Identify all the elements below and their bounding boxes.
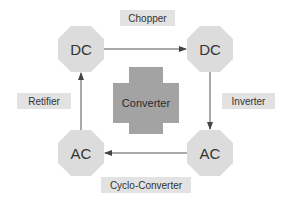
svg-text:DC: DC bbox=[199, 41, 221, 58]
svg-text:Chopper: Chopper bbox=[128, 13, 167, 24]
svg-text:Inverter: Inverter bbox=[232, 96, 267, 107]
tag-chopper: Chopper bbox=[120, 10, 175, 26]
converter-cross: Converter bbox=[113, 67, 179, 134]
svg-text:Retifier: Retifier bbox=[28, 96, 60, 107]
tag-retifier: Retifier bbox=[17, 93, 71, 109]
converter-diagram: Converter DC DC AC AC Chopper Inverter C… bbox=[0, 0, 290, 209]
node-dc-right: DC bbox=[187, 26, 233, 72]
node-ac-right: AC bbox=[187, 130, 233, 176]
svg-text:DC: DC bbox=[70, 41, 92, 58]
svg-text:AC: AC bbox=[71, 145, 92, 162]
svg-text:AC: AC bbox=[200, 145, 221, 162]
node-dc-left: DC bbox=[58, 26, 104, 72]
node-ac-left: AC bbox=[58, 130, 104, 176]
tag-inverter: Inverter bbox=[222, 93, 275, 109]
tag-cycloconverter: Cyclo-Converter bbox=[101, 177, 191, 193]
svg-text:Cyclo-Converter: Cyclo-Converter bbox=[110, 180, 183, 191]
converter-label: Converter bbox=[122, 97, 171, 109]
